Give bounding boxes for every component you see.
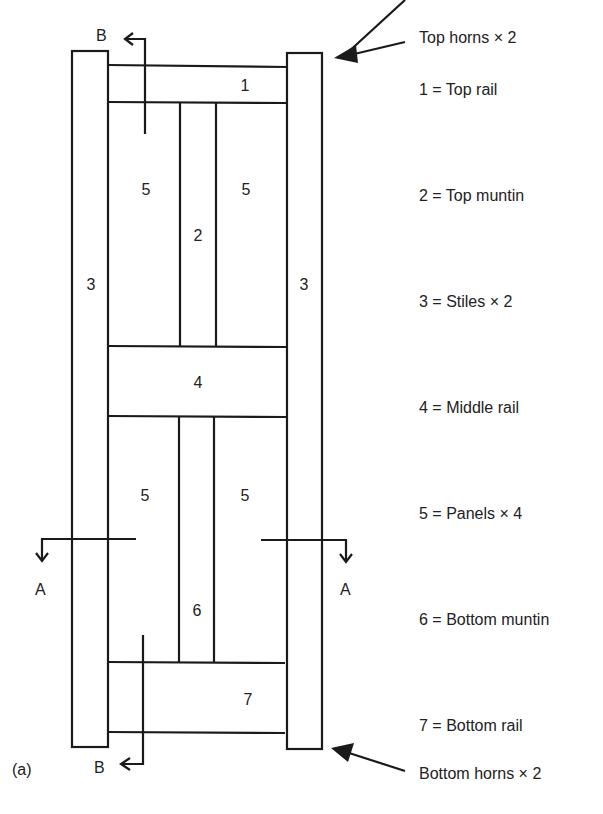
figure-label: (a)	[12, 762, 32, 778]
bottom-rail-bottom-edge	[107, 732, 285, 733]
left-stile	[72, 51, 108, 747]
top-horns-arrow	[334, 0, 405, 63]
part-number-bottom-muntin: 6	[193, 603, 202, 619]
top-rail-top-edge	[108, 65, 287, 67]
bottom-horns-arrow	[331, 743, 405, 771]
section-a-right-label: A	[340, 582, 351, 598]
legend-top-horns: Top horns × 2	[419, 30, 516, 46]
legend-bottom-horns: Bottom horns × 2	[419, 766, 541, 782]
part-number-middle-rail: 4	[194, 375, 203, 391]
top-rail-bottom-edge	[108, 102, 287, 103]
part-number-stile-right: 3	[300, 277, 309, 293]
middle-rail-bottom-edge	[108, 416, 287, 417]
part-number-stile-left: 3	[87, 277, 96, 293]
middle-rail-top-edge	[108, 346, 287, 347]
section-a-left-label: A	[35, 582, 46, 598]
legend-bottom-rail: 7 = Bottom rail	[419, 718, 523, 734]
section-b-bottom-marker	[121, 635, 143, 770]
part-number-top-muntin: 2	[194, 228, 203, 244]
legend-bottom-muntin: 6 = Bottom muntin	[419, 612, 549, 628]
part-number-bottom-rail: 7	[244, 692, 253, 708]
section-b-bottom-label: B	[94, 760, 105, 776]
section-b-top-label: B	[96, 28, 107, 44]
legend-middle-rail: 4 = Middle rail	[419, 400, 519, 416]
legend-top-muntin: 2 = Top muntin	[419, 188, 524, 204]
legend-stiles: 3 = Stiles × 2	[419, 294, 512, 310]
part-number-panel-bottom-right: 5	[241, 488, 250, 504]
right-stile	[287, 53, 322, 749]
section-a-left-marker	[36, 539, 136, 561]
legend-top-rail: 1 = Top rail	[419, 82, 497, 98]
bottom-rail-top-edge	[107, 662, 285, 663]
legend-panels: 5 = Panels × 4	[419, 506, 522, 522]
part-number-panel-top-left: 5	[142, 182, 151, 198]
part-number-panel-top-right: 5	[242, 182, 251, 198]
section-b-top-marker	[125, 33, 145, 134]
part-number-top-rail: 1	[241, 78, 250, 94]
part-number-panel-bottom-left: 5	[141, 488, 150, 504]
section-a-right-marker	[261, 540, 352, 562]
